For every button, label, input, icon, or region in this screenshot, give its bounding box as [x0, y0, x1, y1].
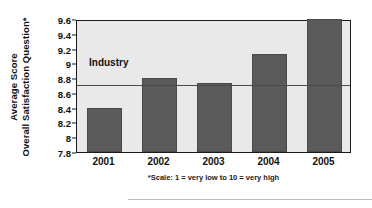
x-tick-label: 2002 — [147, 156, 169, 167]
y-axis-title-line1: Average Score — [8, 17, 20, 156]
y-axis-title-line2: Overall Satisfaction Question* — [20, 17, 32, 156]
y-tick-label: 9 — [66, 59, 71, 70]
industry-reference-line — [77, 85, 350, 86]
y-axis-title: Average Score Overall Satisfaction Quest… — [0, 12, 40, 162]
x-tick-label: 2003 — [202, 156, 224, 167]
x-tick-label: 2004 — [257, 156, 279, 167]
x-tick-label: 2005 — [312, 156, 334, 167]
y-tick-label: 9.2 — [58, 44, 71, 55]
x-tick-label: 2001 — [92, 156, 114, 167]
plot-area: Industry — [76, 20, 351, 153]
bar — [142, 78, 176, 152]
bar — [87, 108, 121, 152]
y-tick-label: 7.8 — [58, 148, 71, 159]
y-tick-label: 9.4 — [58, 29, 71, 40]
y-tick-label: 8 — [66, 133, 71, 144]
y-tick-label: 8.2 — [58, 118, 71, 129]
y-axis-tick-labels: 7.888.28.48.68.899.29.49.6 — [46, 20, 76, 153]
chart-footnote: *Scale: 1 = very low to 10 = very high — [76, 173, 351, 182]
industry-reference-label: Industry — [89, 57, 128, 68]
y-tick-label: 9.6 — [58, 15, 71, 26]
y-tick-label: 8.6 — [58, 88, 71, 99]
x-axis-tick-labels: 20012002200320042005 — [76, 156, 351, 172]
bottom-divider — [128, 199, 372, 200]
chart-figure: Average Score Overall Satisfaction Quest… — [0, 0, 372, 208]
y-tick-label: 8.4 — [58, 103, 71, 114]
bar-series — [77, 21, 350, 152]
bar — [252, 54, 286, 152]
plot-frame: Industry — [76, 20, 351, 153]
bar — [197, 83, 231, 152]
y-tick-label: 8.8 — [58, 74, 71, 85]
